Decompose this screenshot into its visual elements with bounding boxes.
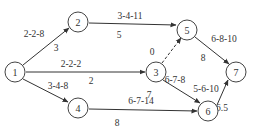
node-5-label: 5 (185, 25, 190, 36)
node-3: 3 (146, 62, 166, 82)
edge-2-5-expected: 5 (117, 30, 122, 40)
edge-5-7-estimate: 6-8-10 (211, 34, 237, 44)
node-6-label: 6 (206, 106, 211, 117)
node-5: 5 (177, 20, 197, 40)
node-4-label: 4 (76, 103, 81, 114)
node-4: 4 (68, 98, 88, 118)
edge-1-3-expected: 2 (89, 76, 94, 86)
edge-5-7-expected: 8 (201, 53, 206, 63)
node-2-label: 2 (76, 17, 81, 28)
edge-1-2-estimate: 2-2-8 (24, 29, 45, 39)
node-7: 7 (226, 62, 246, 82)
edge-3-5-estimate: 0 (150, 47, 155, 57)
edge-3-6-estimate: 6-7-8 (165, 75, 186, 85)
edge-6-7-estimate: 5-6-10 (193, 84, 219, 94)
edge-4-6-expected: 8 (115, 118, 120, 128)
node-7-label: 7 (234, 67, 239, 78)
node-3-label: 3 (154, 67, 159, 78)
edge-2-5-estimate: 3-4-11 (118, 11, 143, 21)
node-6: 6 (198, 101, 218, 121)
edge-4-6 (89, 109, 197, 111)
node-2: 2 (68, 12, 88, 32)
network-diagram: 2-2-8 3 2-2-2 2 3-4-8 3-4-11 5 0 6-7-8 7… (0, 0, 261, 135)
edge-3-5-dummy (162, 38, 181, 63)
edge-4-6-estimate: 6-7-14 (128, 96, 154, 106)
edge-1-2-expected: 3 (54, 43, 59, 53)
node-1-label: 1 (13, 67, 18, 78)
edge-2-5 (89, 23, 176, 25)
edge-1-4-estimate: 3-4-8 (48, 81, 69, 91)
edge-1-3-estimate: 2-2-2 (61, 59, 82, 69)
node-1: 1 (5, 62, 25, 82)
